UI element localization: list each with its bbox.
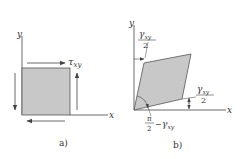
svg-text:2: 2 xyxy=(201,96,206,105)
y-axis-label-b: y xyxy=(128,18,135,28)
x-axis-label-a: x xyxy=(109,110,114,120)
svg-text:2: 2 xyxy=(143,41,148,50)
svg-text:γxy: γxy xyxy=(162,119,175,131)
svg-text:π: π xyxy=(147,115,152,123)
top-angle-label: γxy 2 xyxy=(138,29,156,50)
corner-angle-label: π 2 − γxy xyxy=(145,115,175,133)
caption-a: a) xyxy=(59,138,68,148)
svg-text:γxy: γxy xyxy=(197,84,210,96)
panel-b: y x γxy 2 γxy 2 π 2 − γxy xyxy=(128,18,232,150)
y-axis-label-a: y xyxy=(16,29,23,39)
right-angle-label: γxy 2 xyxy=(196,84,214,105)
shear-stress-label: τxy xyxy=(68,56,82,69)
panel-a: y x τxy a) xyxy=(15,29,114,148)
deformed-element xyxy=(134,54,191,110)
svg-text:−: − xyxy=(155,120,162,129)
caption-b: b) xyxy=(173,140,182,150)
strain-diagram: y x τxy a) y x γxy 2 xyxy=(0,0,240,159)
stress-element xyxy=(22,68,70,115)
svg-text:2: 2 xyxy=(147,125,151,133)
x-axis-label-b: x xyxy=(227,105,232,115)
svg-text:γxy: γxy xyxy=(139,29,152,41)
